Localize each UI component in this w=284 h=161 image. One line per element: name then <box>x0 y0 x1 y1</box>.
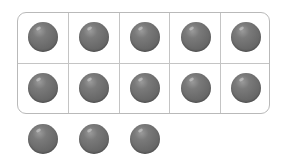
counter-icon <box>181 73 211 103</box>
counter-icon <box>130 22 160 52</box>
extra-counter-icon <box>79 124 109 154</box>
counter-icon <box>79 73 109 103</box>
counter-icon <box>28 73 58 103</box>
row-divider <box>18 63 269 64</box>
counter-icon <box>79 22 109 52</box>
counter-icon <box>231 73 261 103</box>
extra-counter-icon <box>28 124 58 154</box>
counter-icon <box>130 73 160 103</box>
counter-icon <box>231 22 261 52</box>
counter-icon <box>28 22 58 52</box>
counter-icon <box>181 22 211 52</box>
extra-counter-icon <box>130 124 160 154</box>
